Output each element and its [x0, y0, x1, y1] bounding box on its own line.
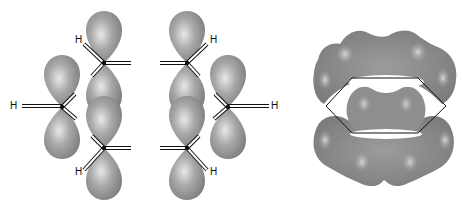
carbon-bottom-right [160, 96, 207, 200]
hydrogen-label-left: H [10, 101, 17, 111]
hydrogen-label-top-left: H [75, 35, 82, 45]
hydrogen-label-bottom-right: H [210, 167, 217, 177]
benzene-orbital-figure: H H H H H H [0, 0, 463, 206]
carbon-left [22, 55, 80, 159]
pi-electron-cloud [313, 30, 456, 186]
p-orbital-diagram [22, 11, 269, 200]
pi-cloud-upper-ring [313, 30, 456, 104]
carbon-bottom-left [84, 96, 131, 200]
pi-cloud-inner-band [347, 87, 426, 133]
hydrogen-label-right: H [271, 101, 278, 111]
figure-canvas [0, 0, 463, 206]
hydrogen-label-bottom-left: H [75, 167, 82, 177]
carbon-right [210, 55, 269, 159]
hydrogen-label-top-right: H [210, 35, 217, 45]
